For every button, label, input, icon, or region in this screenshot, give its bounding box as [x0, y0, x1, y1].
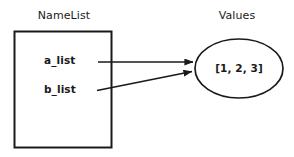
namelist-title: NameList [22, 9, 106, 22]
diagram-canvas: NameList Values a_list b_list [1, 2, 3] [0, 0, 294, 157]
diagram-graphics [0, 0, 294, 157]
variable-b-list-label: b_list [44, 83, 76, 95]
values-title: Values [200, 9, 274, 22]
list-value-label: [1, 2, 3] [199, 62, 279, 74]
variable-a-list-label: a_list [44, 54, 75, 66]
